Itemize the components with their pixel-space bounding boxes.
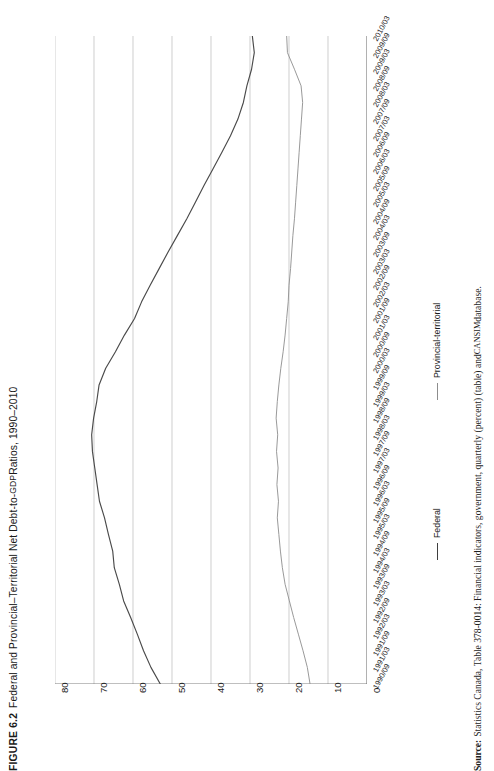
value-axis-tick-label: 60: [137, 682, 148, 693]
chart-plot-area: [55, 36, 367, 684]
time-axis-tick-label: 1990/09: [371, 662, 392, 690]
value-axis-tick-label: 80: [59, 682, 70, 693]
line-chart-svg: [55, 36, 367, 684]
time-axis-tick-label: 1999/09: [371, 363, 392, 391]
time-axis-tick-label: 1995/09: [371, 496, 392, 524]
time-axis-tick-label: 2002/09: [371, 263, 392, 291]
legend-entry-federal[interactable]: Federal: [432, 508, 442, 560]
source-text-b: database.: [472, 286, 483, 321]
time-axis-tick-label: 1995/03: [371, 513, 392, 541]
time-axis-tick-label: 1992/03: [371, 612, 392, 640]
time-axis-tick-label: 2005/09: [371, 164, 392, 192]
time-axis-tick-label: 2004/09: [371, 197, 392, 225]
legend-line-swatch: [437, 383, 438, 400]
time-axis-tick-label: 1998/09: [371, 396, 392, 424]
figure-number: FIGURE 6.2: [8, 713, 19, 771]
time-axis-tick-label: 2003/03: [371, 247, 392, 275]
figure-title: FIGURE 6.2 Federal and Provincial–Territ…: [0, 0, 26, 771]
source-label: Source:: [472, 740, 483, 771]
time-axis-tick-label: 2002/03: [371, 280, 392, 308]
figure-title-tail: Ratios, 1990–2010: [8, 387, 19, 475]
time-axis-tick-label: 2008/03: [371, 81, 392, 109]
time-axis-tick-label: 1997/09: [371, 430, 392, 458]
data-series-group: [92, 36, 310, 684]
time-axis-tick-label: 1994/03: [371, 546, 392, 574]
value-axis-tick-label: 30: [254, 682, 265, 693]
value-axis-tick-label: 20: [293, 682, 304, 693]
figure-title-gdp-smallcaps: GDP: [8, 475, 18, 494]
value-axis-tick-label: 70: [98, 682, 109, 693]
legend-label: Federal: [432, 508, 442, 538]
series-line-provincial-territorial: [276, 36, 310, 684]
time-axis-tick-label: 1994/09: [371, 529, 392, 557]
time-axis-tick-label: 2009/03: [371, 47, 392, 75]
time-axis-tick-label: 2004/03: [371, 214, 392, 242]
value-axis-tick-label: 50: [176, 682, 187, 693]
value-axis-tick-label: 10: [332, 682, 343, 693]
legend-label: Provincial-territorial: [432, 303, 442, 378]
value-axis-tick-label: 0: [371, 688, 382, 693]
legend-entry-provincial-territorial[interactable]: Provincial-territorial: [432, 303, 442, 400]
series-line-federal: [92, 36, 255, 684]
time-axis-tick-label: 2003/09: [371, 230, 392, 258]
time-axis-tick-label: 1997/03: [371, 446, 392, 474]
source-note: Source: Statistics Canada, Table 378-001…: [466, 0, 488, 771]
value-axis-tick-label: 40: [215, 682, 226, 693]
time-axis-tick-label: 2007/09: [371, 97, 392, 125]
time-axis-tick-label: 2006/03: [371, 147, 392, 175]
time-axis-tick-label: 2000/03: [371, 346, 392, 374]
time-axis-tick-label: 1996/09: [371, 463, 392, 491]
figure-title-main: Federal and Provincial–Territorial Net D…: [8, 494, 19, 708]
source-text-a: Statistics Canada, Table 378-0014: Finan…: [472, 354, 483, 737]
time-axis-tick-label: 2006/09: [371, 130, 392, 158]
time-axis-tick-label: 1991/09: [371, 629, 392, 657]
time-axis-tick-label: 2000/09: [371, 330, 392, 358]
legend-line-swatch: [437, 543, 438, 560]
source-cansim-smallcaps: CANSIM: [473, 322, 482, 355]
gridlines-group: [55, 36, 367, 684]
time-axis-tick-label: 2005/03: [371, 180, 392, 208]
time-axis-tick-label: 2001/03: [371, 313, 392, 341]
time-axis-tick-label: 2008/09: [371, 64, 392, 92]
time-axis-tick-label: 2001/09: [371, 297, 392, 325]
time-axis-tick-label: 1999/03: [371, 380, 392, 408]
time-axis-tick-label: 1992/09: [371, 596, 392, 624]
time-axis-tick-label: 1993/03: [371, 579, 392, 607]
time-axis-tick-label: 2009/09: [371, 31, 392, 59]
time-axis-tick-label: 1996/03: [371, 479, 392, 507]
time-axis-tick-label: 1991/03: [371, 646, 392, 674]
time-axis-tick-label: 1998/03: [371, 413, 392, 441]
time-axis-tick-label: 2007/03: [371, 114, 392, 142]
time-axis-tick-label: 2010/03: [371, 14, 392, 42]
time-axis-tick-label: 1993/09: [371, 562, 392, 590]
